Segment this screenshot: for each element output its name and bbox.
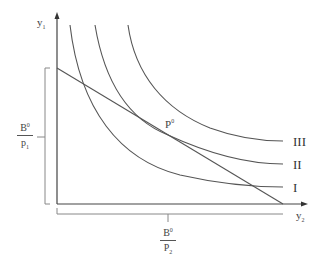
horizontal-intercept-bracket [57, 208, 283, 214]
curve-label-i: I [293, 181, 297, 194]
horizontal-intercept-numerator-sup: 0 [170, 227, 173, 233]
horizontal-intercept-numerator: B [163, 227, 170, 238]
vertical-intercept-numerator-sup: 0 [27, 122, 30, 128]
y-axis-label-sub: 1 [43, 24, 46, 30]
curve-label-iii: III [293, 135, 306, 148]
horizontal-intercept-denominator-sub: 2 [169, 249, 172, 255]
indifference-curve-ii [95, 25, 283, 164]
vertical-intercept-numerator: B [20, 122, 27, 133]
diagram-canvas [0, 0, 323, 264]
x-axis-arrow-icon [301, 202, 308, 207]
curve-label-ii: II [293, 158, 302, 171]
tangency-point-label: P0 [165, 118, 174, 130]
vertical-intercept-bracket [45, 68, 50, 204]
tangency-point-sup: 0 [171, 118, 174, 124]
indifference-curve-iii [128, 25, 283, 141]
fraction-bar [17, 135, 33, 136]
vertical-intercept-denominator-sub: 1 [26, 144, 29, 150]
vertical-intercept-label: B0 p1 [17, 122, 33, 150]
indifference-curve-i [70, 25, 283, 187]
y-axis-arrow-icon [55, 12, 60, 19]
x-axis-label: y2 [296, 210, 305, 223]
y-axis-label: y1 [37, 17, 46, 30]
x-axis-label-sub: 2 [302, 217, 305, 223]
fraction-bar [160, 240, 176, 241]
horizontal-intercept-label: B0 P2 [160, 227, 176, 255]
